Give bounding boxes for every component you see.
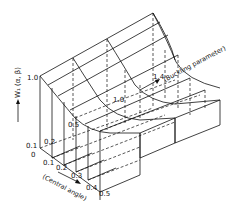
y-tick-0-5: 0.5	[68, 121, 79, 129]
x-tick-0-5: 0.5	[99, 190, 110, 198]
z-axis-label: W₁ (α, β)	[14, 67, 22, 98]
z-tick-1-0: 1.0	[27, 74, 38, 82]
y-tick-0-2: 0.2	[44, 138, 55, 146]
z-tick-0-1: 0.1	[26, 142, 37, 150]
arrow-up-icon	[16, 99, 20, 104]
x-tick-0-3: 0.3	[71, 172, 82, 180]
x-tick-0-2: 0.2	[56, 164, 67, 172]
x-tick-0-4: 0.4	[86, 184, 98, 192]
y-tick-1-0: 1.0	[113, 96, 124, 104]
x-tick-0-1: 0.1	[43, 159, 54, 167]
x-tick-0: 0	[31, 151, 35, 159]
surface-diagram: W₁ (α, β) 1.0 0.1 0 0.1 0.2 0.3 0.4 0.5 …	[0, 0, 233, 224]
